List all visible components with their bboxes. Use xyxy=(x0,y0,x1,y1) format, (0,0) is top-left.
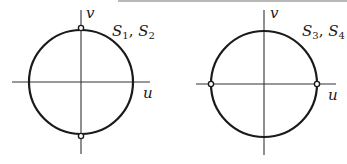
u-axis-label: u xyxy=(143,84,153,102)
panel-label-s1-s2: S1, S2 xyxy=(112,22,155,41)
diagram-canvas: v u S1, S2 v u S3, S4 xyxy=(0,0,347,164)
marked-point-bottom xyxy=(78,133,83,138)
marked-point-right xyxy=(314,81,319,86)
marked-point-left xyxy=(208,81,213,86)
marked-point-top xyxy=(78,25,83,30)
u-axis-label: u xyxy=(328,86,338,104)
v-axis-label: v xyxy=(270,4,279,22)
panel-left: v u S1, S2 xyxy=(12,4,155,154)
v-axis-label: v xyxy=(86,4,95,22)
panel-right: v u S3, S4 xyxy=(196,4,345,155)
panel-label-s3-s4: S3, S4 xyxy=(302,22,345,41)
